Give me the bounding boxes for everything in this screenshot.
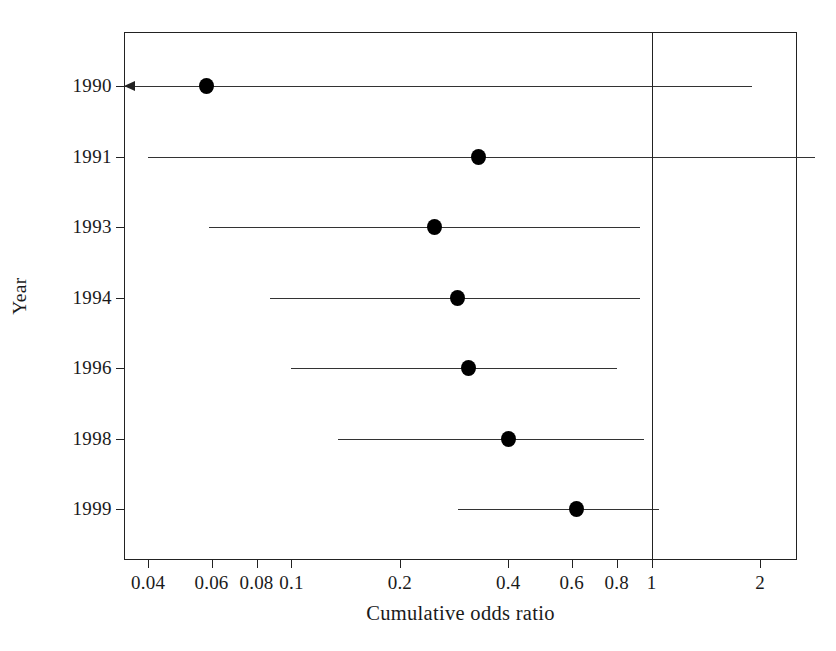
confidence-interval-line [125, 86, 752, 87]
ci-left-arrowhead-icon [124, 81, 135, 91]
point-estimate-marker [471, 149, 486, 165]
x-axis-tick [617, 559, 618, 568]
confidence-interval-line [209, 227, 640, 228]
y-axis-tick-label-1996: 1996 [72, 357, 112, 379]
x-axis-tick [508, 559, 509, 568]
x-axis-tick [760, 559, 761, 568]
x-axis-tick [572, 559, 573, 568]
y-axis-tick-label-1990: 1990 [72, 75, 112, 97]
confidence-interval-line [458, 509, 659, 510]
y-axis-tick [116, 227, 125, 228]
point-estimate-marker [199, 78, 214, 94]
y-axis-tick [116, 298, 125, 299]
x-axis-tick [400, 559, 401, 568]
y-axis-tick [116, 509, 125, 510]
x-axis-tick-label-0.06: 0.06 [195, 572, 229, 594]
x-axis-tick [291, 559, 292, 568]
point-estimate-marker [501, 431, 516, 447]
x-axis-tick-label-0.4: 0.4 [496, 572, 520, 594]
x-axis-tick-label-2: 2 [755, 572, 765, 594]
point-estimate-marker [569, 501, 584, 517]
confidence-interval-line [291, 368, 616, 369]
x-axis-tick [148, 559, 149, 568]
y-axis-tick-label-1991: 1991 [72, 146, 112, 168]
x-axis-tick [257, 559, 258, 568]
y-axis-tick [116, 157, 125, 158]
x-axis-tick-label-0.04: 0.04 [131, 572, 165, 594]
x-axis-title: Cumulative odds ratio [124, 602, 797, 625]
x-axis-tick [212, 559, 213, 568]
x-axis-tick [652, 559, 653, 568]
y-axis-tick [116, 368, 125, 369]
x-axis-tick-label-0.2: 0.2 [388, 572, 412, 594]
y-axis-title: Year [9, 277, 31, 315]
y-axis-tick-label-1994: 1994 [72, 287, 112, 309]
x-axis-tick-label-0.08: 0.08 [240, 572, 274, 594]
point-estimate-marker [450, 290, 465, 306]
y-axis-tick [116, 439, 125, 440]
reference-line-at-1 [652, 33, 653, 559]
x-axis-tick-label-1: 1 [647, 572, 657, 594]
y-axis-tick-label-1999: 1999 [72, 498, 112, 520]
x-axis-tick-label-0.6: 0.6 [560, 572, 584, 594]
y-axis-tick-label-1993: 1993 [72, 216, 112, 238]
plot-area: 1990199119931994199619981999 0.040.060.0… [124, 32, 797, 560]
point-estimate-marker [427, 219, 442, 235]
x-axis-tick-label-0.1: 0.1 [279, 572, 303, 594]
point-estimate-marker [461, 360, 476, 376]
confidence-interval-line [338, 439, 643, 440]
x-axis-tick-label-0.8: 0.8 [605, 572, 629, 594]
forest-plot-figure: Year 1990199119931994199619981999 0.040.… [0, 0, 836, 651]
y-axis-tick-label-1998: 1998 [72, 428, 112, 450]
